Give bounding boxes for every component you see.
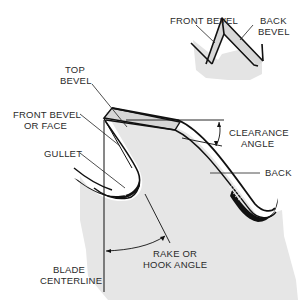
label-clearance-line2: ANGLE [241, 138, 274, 149]
label-rake-line1: RAKE OR [153, 248, 197, 259]
label-inset-back-bevel-line1: BACK [260, 15, 287, 26]
label-back: BACK [265, 167, 292, 178]
diagram-canvas: FRONT BEVEL BACK BEVEL TOP BEVEL FRONT B… [0, 0, 306, 306]
label-top-bevel-line2: BEVEL [60, 75, 92, 86]
label-top-bevel-line1: TOP [65, 64, 85, 75]
label-gullet: GULLET [44, 148, 82, 159]
label-inset-front-bevel: FRONT BEVEL [170, 15, 238, 26]
saw-tooth-diagram: FRONT BEVEL BACK BEVEL TOP BEVEL FRONT B… [0, 0, 306, 306]
label-centerline-line2: CENTERLINE [40, 275, 102, 286]
label-front-face-line2: OR FACE [24, 120, 67, 131]
gullet-outer-edge [74, 168, 112, 190]
label-rake-line2: HOOK ANGLE [143, 259, 207, 270]
label-inset-back-bevel-line2: BEVEL [258, 26, 290, 37]
label-front-face-line1: FRONT BEVEL [13, 109, 81, 120]
inset-tooth-view [191, 18, 263, 80]
label-clearance-line1: CLEARANCE [229, 127, 289, 138]
label-centerline-line1: BLADE [53, 264, 85, 275]
